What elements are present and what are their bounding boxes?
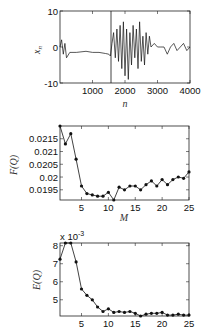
middle-series-markers: [58, 124, 190, 201]
x-tick-label: 25: [184, 202, 195, 213]
x-tick-label: 10: [103, 202, 114, 213]
middle-y-ticks: 0.01950.020.02050.0210.0215: [29, 133, 189, 195]
x-tick-label: 15: [130, 318, 141, 329]
y-tick-label: 8: [53, 240, 58, 251]
x-tick-label: 3000: [147, 85, 168, 96]
middle-x-label: M: [119, 212, 129, 223]
top-y-label: xn: [31, 46, 44, 55]
y-tick-label: 0.0215: [29, 133, 58, 144]
y-tick-label: 5: [53, 294, 58, 305]
x-tick-label: 4000: [179, 85, 200, 96]
top-x-label: n: [123, 98, 128, 109]
x-tick-label: 20: [157, 202, 168, 213]
y-tick-label: -10: [44, 78, 58, 89]
y-tick-label: 0.0195: [29, 184, 58, 195]
top-signal-line: [60, 22, 190, 80]
top-plot: -10010 1000200030004000 xn n: [31, 6, 201, 110]
y-tick-label: 10: [47, 6, 58, 17]
bottom-series-markers: [58, 241, 190, 317]
y-tick-label: 0.021: [34, 146, 58, 157]
bottom-y-label: E(Q): [31, 269, 43, 291]
x-tick-label: 20: [157, 318, 168, 329]
y-tick-label: 0.02: [40, 172, 59, 183]
x-tick-label: 25: [184, 318, 195, 329]
top-y-ticks: -10010: [44, 6, 190, 89]
y-tick-label: 0: [53, 42, 58, 53]
x-tick-label: 5: [79, 202, 84, 213]
x-tick-label: 5: [79, 318, 84, 329]
bottom-series-line: [60, 243, 189, 316]
x-tick-label: 15: [130, 202, 141, 213]
x-tick-label: 2000: [114, 85, 135, 96]
bottom-scale-note: x 10-3: [60, 230, 84, 242]
middle-y-label: F(Q): [8, 154, 20, 176]
figure: -10010 1000200030004000 xn n 0.01950.020…: [0, 0, 210, 331]
x-tick-label: 1000: [82, 85, 103, 96]
y-tick-label: 6: [53, 276, 58, 287]
y-tick-label: 7: [53, 258, 58, 269]
bottom-plot: 5678 510152025 x 10-3 E(Q): [31, 230, 194, 329]
middle-plot: 0.01950.020.02050.0210.0215 510152025 F(…: [8, 124, 194, 223]
x-tick-label: 10: [103, 318, 114, 329]
y-tick-label: 0.0205: [29, 159, 58, 170]
